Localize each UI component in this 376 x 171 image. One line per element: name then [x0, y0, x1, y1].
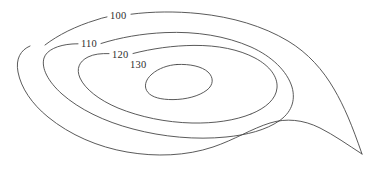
contour-line-120-lower	[78, 54, 251, 123]
contour-line-110-lower	[43, 44, 279, 138]
contour-label-130: 130	[130, 60, 146, 71]
contour-label-120: 120	[112, 50, 128, 61]
contour-label-110: 110	[81, 39, 97, 50]
contour-label-100: 100	[110, 11, 126, 22]
contour-lines-svg	[0, 0, 376, 171]
contour-line-100-upper	[45, 17, 107, 45]
contour-line-100-lower	[17, 46, 362, 155]
contour-line-130	[145, 64, 212, 99]
contour-line-120-upper	[133, 45, 277, 114]
contour-map-figure: 100 110 120 130	[0, 0, 376, 171]
